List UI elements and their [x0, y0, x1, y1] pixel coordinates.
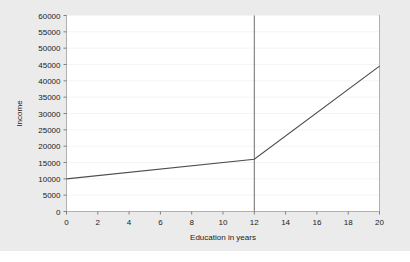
- y-axis-ticks: 0500010000150002000025000300003500040000…: [38, 12, 66, 217]
- y-tick-label: 10000: [38, 175, 61, 184]
- y-tick-label: 25000: [38, 126, 61, 135]
- y-tick-label: 35000: [38, 93, 61, 102]
- y-tick-label: 20000: [38, 142, 61, 151]
- x-tick-label: 18: [344, 218, 353, 227]
- x-axis-ticks: 02468101214161820: [64, 212, 384, 227]
- x-tick-label: 2: [96, 218, 101, 227]
- y-axis-title: Income: [15, 100, 24, 127]
- chart-canvas: 0500010000150002000025000300003500040000…: [0, 0, 410, 251]
- y-tick-label: 55000: [38, 28, 61, 37]
- y-tick-label: 40000: [38, 77, 61, 86]
- x-tick-label: 16: [312, 218, 321, 227]
- x-tick-label: 10: [219, 218, 228, 227]
- y-tick-label: 45000: [38, 61, 61, 70]
- x-tick-label: 4: [127, 218, 132, 227]
- y-tick-label: 0: [56, 208, 61, 217]
- x-tick-label: 0: [64, 218, 69, 227]
- y-tick-label: 15000: [38, 159, 61, 168]
- x-tick-label: 20: [375, 218, 384, 227]
- y-tick-label: 5000: [43, 191, 61, 200]
- x-tick-label: 14: [281, 218, 290, 227]
- y-tick-label: 60000: [38, 12, 61, 21]
- y-tick-label: 30000: [38, 110, 61, 119]
- figure-panel: 0500010000150002000025000300003500040000…: [0, 0, 410, 251]
- x-tick-label: 6: [158, 218, 163, 227]
- x-tick-label: 12: [250, 218, 259, 227]
- x-axis-title: Education in years: [190, 233, 256, 242]
- x-tick-label: 8: [189, 218, 194, 227]
- y-tick-label: 50000: [38, 44, 61, 53]
